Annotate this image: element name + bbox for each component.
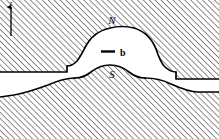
- north-pole-label: N: [107, 14, 116, 26]
- south-pole-label: S: [109, 68, 115, 80]
- b-field-label: b: [120, 47, 126, 58]
- figure-root: z N b S: [0, 0, 219, 139]
- figure-canvas: z N b S: [0, 0, 219, 139]
